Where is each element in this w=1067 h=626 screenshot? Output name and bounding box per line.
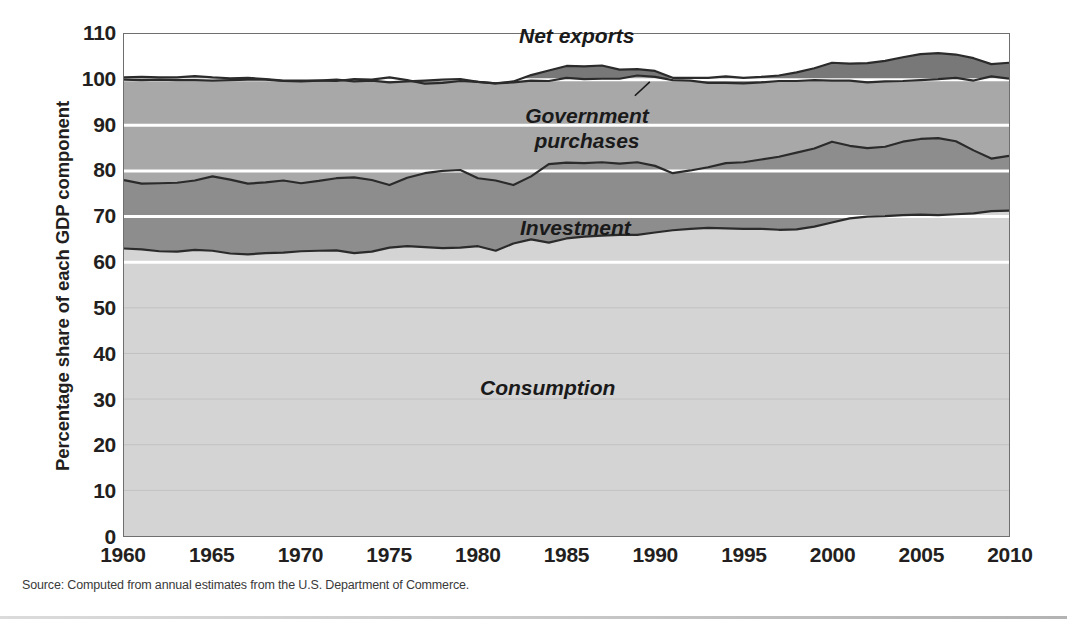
y-tick-label: 30 <box>56 388 116 412</box>
y-tick-label: 70 <box>56 204 116 228</box>
x-axis-tick-labels: 1960196519701975198019851990199520002005… <box>0 543 1067 577</box>
y-tick-label: 90 <box>56 113 116 137</box>
y-tick-label: 80 <box>56 158 116 182</box>
series-label-government-line2: purchases <box>534 129 639 152</box>
source-note: Source: Computed from annual estimates f… <box>22 578 469 592</box>
series-label-government-purchases: Governmentpurchases <box>497 104 677 154</box>
series-label-consumption: Consumption <box>480 376 615 400</box>
y-tick-label: 60 <box>56 250 116 274</box>
x-tick-label: 2010 <box>950 543 1067 567</box>
y-tick-label: 20 <box>56 433 116 457</box>
figure-gdp-components: Percentage share of each GDP component 1… <box>0 0 1067 626</box>
y-tick-label: 40 <box>56 342 116 366</box>
y-axis-tick-labels: 1101009080706050403020100 <box>56 0 116 626</box>
series-label-investment: Investment <box>520 216 631 240</box>
y-tick-label: 10 <box>56 479 116 503</box>
page-bottom-rule <box>0 616 1067 619</box>
series-label-government-line1: Government <box>525 104 649 127</box>
y-tick-label: 110 <box>56 21 116 45</box>
y-tick-label: 100 <box>56 67 116 91</box>
y-tick-label: 50 <box>56 296 116 320</box>
series-label-net-exports: Net exports <box>519 24 635 48</box>
area-band-consumption <box>124 211 1009 536</box>
